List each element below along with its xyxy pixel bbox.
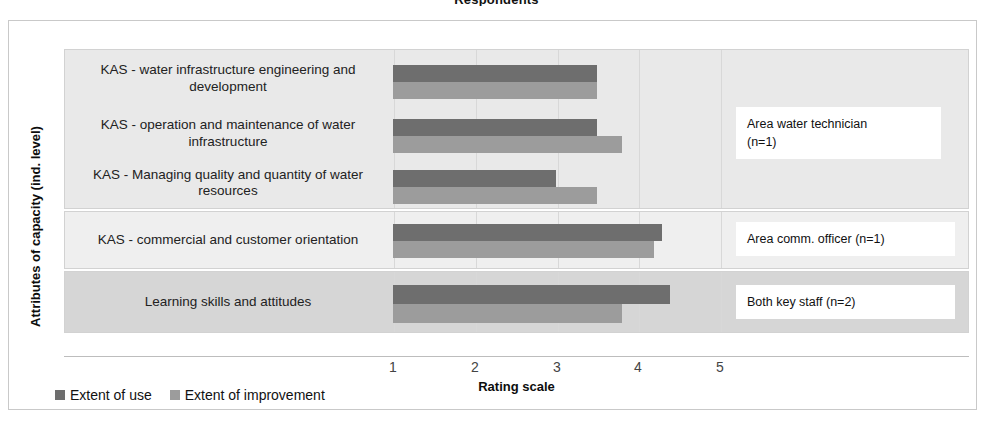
callout-group-0-line1: Area water technician xyxy=(747,115,930,133)
bar-use-0 xyxy=(393,65,597,82)
gridline-5 xyxy=(721,50,722,208)
callout-group-1-text: Area comm. officer (n=1) xyxy=(747,232,885,246)
callout-group-0: Area water technician (n=1) xyxy=(736,107,941,159)
x-axis-line xyxy=(64,356,969,357)
chart-title: Respondents xyxy=(0,0,993,6)
category-label-2-text: KAS - Managing quality and quantity of w… xyxy=(70,167,386,200)
y-axis-title-text: Attributes of capacity (ind. level) xyxy=(28,126,43,327)
category-label-3-text: KAS - commercial and customer orientatio… xyxy=(98,232,358,248)
bar-use-2 xyxy=(393,170,556,187)
category-label-0: KAS - water infrastructure engineering a… xyxy=(64,51,392,106)
category-label-0-text: KAS - water infrastructure engineering a… xyxy=(70,62,386,95)
legend-swatch-icon-improve xyxy=(170,390,180,400)
legend-item-extent-of-use: Extent of use xyxy=(55,387,152,403)
category-label-1: KAS - operation and maintenance of water… xyxy=(64,106,392,161)
callout-group-0-line2: (n=1) xyxy=(747,133,930,151)
bar-use-3 xyxy=(393,224,662,241)
category-label-1-text: KAS - operation and maintenance of water… xyxy=(70,117,386,150)
legend-label-improve: Extent of improvement xyxy=(185,387,325,403)
gridline-5 xyxy=(721,272,722,332)
legend-label-use: Extent of use xyxy=(70,387,152,403)
x-tick-5: 5 xyxy=(716,359,724,375)
plot-area: KAS - water infrastructure engineering a… xyxy=(64,49,969,356)
callout-group-2: Both key staff (n=2) xyxy=(736,285,955,319)
bar-improve-1 xyxy=(393,136,622,153)
bar-use-4 xyxy=(393,285,670,304)
bar-improve-3 xyxy=(393,241,654,258)
bar-improve-2 xyxy=(393,187,597,204)
category-label-4: Learning skills and attitudes xyxy=(64,272,392,332)
category-label-3: KAS - commercial and customer orientatio… xyxy=(64,212,392,268)
legend: Extent of use Extent of improvement xyxy=(55,387,325,403)
callout-group-1: Area comm. officer (n=1) xyxy=(736,222,955,256)
x-tick-2: 2 xyxy=(471,359,479,375)
callout-group-2-text: Both key staff (n=2) xyxy=(747,295,856,309)
legend-swatch-icon-use xyxy=(55,390,65,400)
chart-frame: Attributes of capacity (ind. level) KAS … xyxy=(8,20,977,410)
legend-item-extent-of-improvement: Extent of improvement xyxy=(170,387,325,403)
x-tick-3: 3 xyxy=(553,359,561,375)
gridline-4 xyxy=(639,50,640,208)
gridline-5 xyxy=(721,212,722,268)
bar-use-1 xyxy=(393,119,597,136)
bar-improve-0 xyxy=(393,82,597,99)
y-axis-title: Attributes of capacity (ind. level) xyxy=(23,76,47,376)
category-label-4-text: Learning skills and attitudes xyxy=(145,294,312,310)
x-axis-ticks: 1 2 3 4 5 xyxy=(64,359,969,379)
x-tick-4: 4 xyxy=(634,359,642,375)
category-label-2: KAS - Managing quality and quantity of w… xyxy=(64,157,392,209)
x-tick-1: 1 xyxy=(389,359,397,375)
bar-improve-4 xyxy=(393,304,622,323)
